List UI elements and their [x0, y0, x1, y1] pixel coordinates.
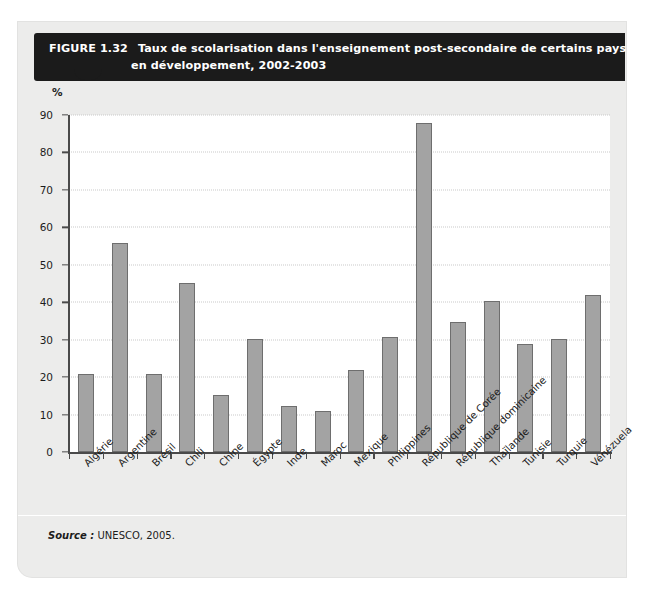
x-tick-0	[69, 453, 70, 459]
y-axis-label-80: 80	[27, 146, 53, 158]
y-axis-label-20: 20	[27, 371, 53, 383]
bar-argentine	[112, 243, 128, 452]
y-axis-label-70: 70	[27, 184, 53, 196]
source-value: UNESCO, 2005.	[94, 530, 174, 541]
bar-v-n-zuela	[585, 295, 601, 452]
bar-chine	[213, 395, 229, 452]
bar-chili	[179, 283, 195, 452]
chart-plot-area: 0102030405060708090 AlgérieArgentineBrés…	[18, 22, 626, 577]
gridline-80	[69, 152, 610, 153]
bar-r-publique-de-cor-e	[416, 123, 432, 452]
source-separator	[18, 515, 626, 516]
gridline-50	[69, 264, 610, 265]
bar-inde	[281, 406, 297, 452]
bar-alg-rie	[78, 374, 94, 452]
y-axis-label-90: 90	[27, 109, 53, 121]
source-label: Source :	[48, 530, 94, 541]
y-axis-label-40: 40	[27, 296, 53, 308]
bar-turquie	[551, 339, 567, 452]
gridline-70	[69, 189, 610, 190]
gridline-60	[69, 227, 610, 228]
figure-card: FIGURE 1.32Taux de scolarisation dans l'…	[18, 22, 626, 577]
bar-gypte	[247, 339, 263, 452]
y-axis-label-50: 50	[27, 259, 53, 271]
y-axis-label-60: 60	[27, 221, 53, 233]
bar-mexique	[348, 370, 364, 452]
y-axis-label-10: 10	[27, 409, 53, 421]
source-note: Source : UNESCO, 2005.	[48, 530, 175, 541]
y-axis-label-0: 0	[27, 446, 53, 458]
bar-maroc	[315, 411, 331, 452]
gridline-90	[69, 115, 610, 116]
gridline-40	[69, 302, 610, 303]
y-axis-line	[68, 115, 70, 453]
y-axis-label-30: 30	[27, 334, 53, 346]
gridline-30	[69, 339, 610, 340]
